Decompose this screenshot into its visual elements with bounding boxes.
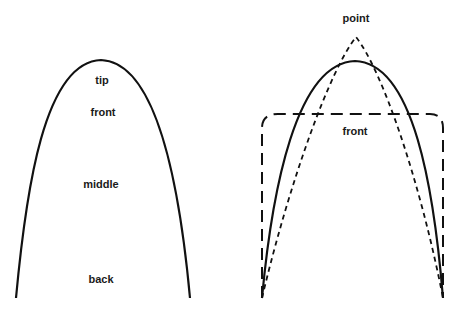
label-front-right: front (342, 126, 367, 137)
label-middle: middle (83, 179, 118, 190)
diagram-canvas (0, 0, 456, 309)
label-back: back (88, 274, 113, 285)
right-solid-arch-curve (262, 61, 443, 298)
label-tip: tip (95, 75, 108, 86)
label-point: point (343, 13, 370, 24)
right-pointed-curve (262, 37, 443, 298)
label-front-left: front (90, 107, 115, 118)
